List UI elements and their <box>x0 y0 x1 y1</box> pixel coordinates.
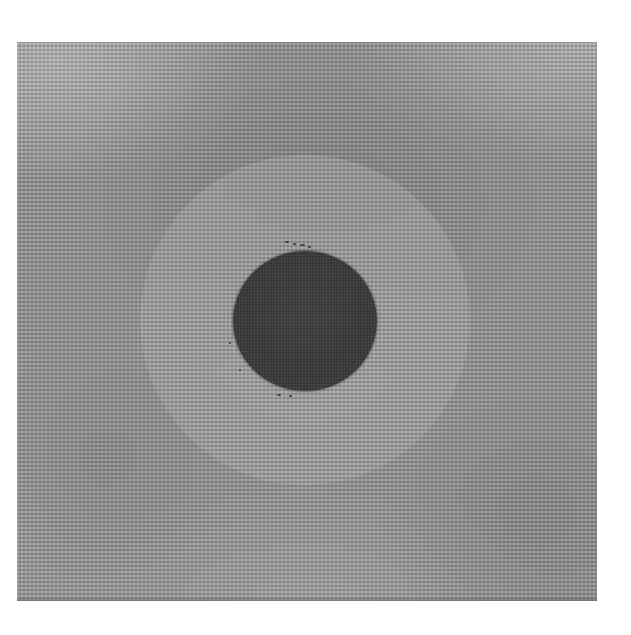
bottom-edge-shadow <box>17 597 597 601</box>
debris-mark <box>277 394 281 396</box>
debris-mark <box>300 244 305 246</box>
debris-mark <box>293 243 296 245</box>
disc-texture <box>233 251 377 391</box>
debris-mark <box>229 342 231 344</box>
debris-mark <box>285 241 289 243</box>
debris-mark <box>289 395 292 397</box>
debris-mark <box>308 246 311 248</box>
debris-mark <box>239 369 241 371</box>
fabric-swatch <box>17 42 597 601</box>
center-disc <box>233 251 377 391</box>
